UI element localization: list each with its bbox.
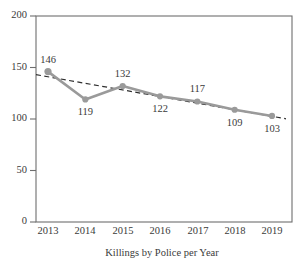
y-tick-label-200: 200 xyxy=(11,9,27,20)
data-point-marker-2016 xyxy=(157,93,163,99)
data-label-2018: 109 xyxy=(227,117,243,128)
data-point-marker-2017 xyxy=(194,98,200,104)
line-chart: 0 50 100 150 200 2013 2014 2015 2016 201… xyxy=(0,0,304,270)
data-point-marker-2018 xyxy=(232,107,238,113)
data-point-marker-2015 xyxy=(120,83,126,89)
y-axis-ticks xyxy=(30,16,36,222)
data-label-2017: 117 xyxy=(190,83,205,94)
x-tick-label-2017: 2017 xyxy=(188,225,209,236)
x-tick-label-2014: 2014 xyxy=(75,225,97,236)
data-label-2016: 122 xyxy=(152,103,168,114)
x-axis-labels: 2013 2014 2015 2016 2017 2018 2019 xyxy=(38,225,283,236)
plot-frame xyxy=(36,16,292,222)
x-tick-label-2019: 2019 xyxy=(262,225,283,236)
y-tick-label-50: 50 xyxy=(17,164,28,175)
x-tick-label-2018: 2018 xyxy=(225,225,246,236)
data-label-2013: 146 xyxy=(40,54,56,65)
y-tick-label-0: 0 xyxy=(22,215,27,226)
y-axis-labels: 0 50 100 150 200 xyxy=(11,9,27,226)
y-tick-label-150: 150 xyxy=(11,61,27,72)
x-tick-label-2013: 2013 xyxy=(38,225,59,236)
x-axis-title: Killings by Police per Year xyxy=(105,247,219,258)
chart-figure: 0 50 100 150 200 2013 2014 2015 2016 201… xyxy=(0,0,304,270)
data-label-2014: 119 xyxy=(78,106,93,117)
data-label-2019: 103 xyxy=(264,123,280,134)
x-tick-label-2015: 2015 xyxy=(113,225,134,236)
data-point-marker-2013 xyxy=(44,68,51,75)
y-tick-label-100: 100 xyxy=(11,112,27,123)
data-label-2015: 132 xyxy=(115,68,131,79)
data-point-marker-2019 xyxy=(269,113,275,119)
data-point-marker-2014 xyxy=(82,96,88,102)
x-tick-label-2016: 2016 xyxy=(150,225,171,236)
